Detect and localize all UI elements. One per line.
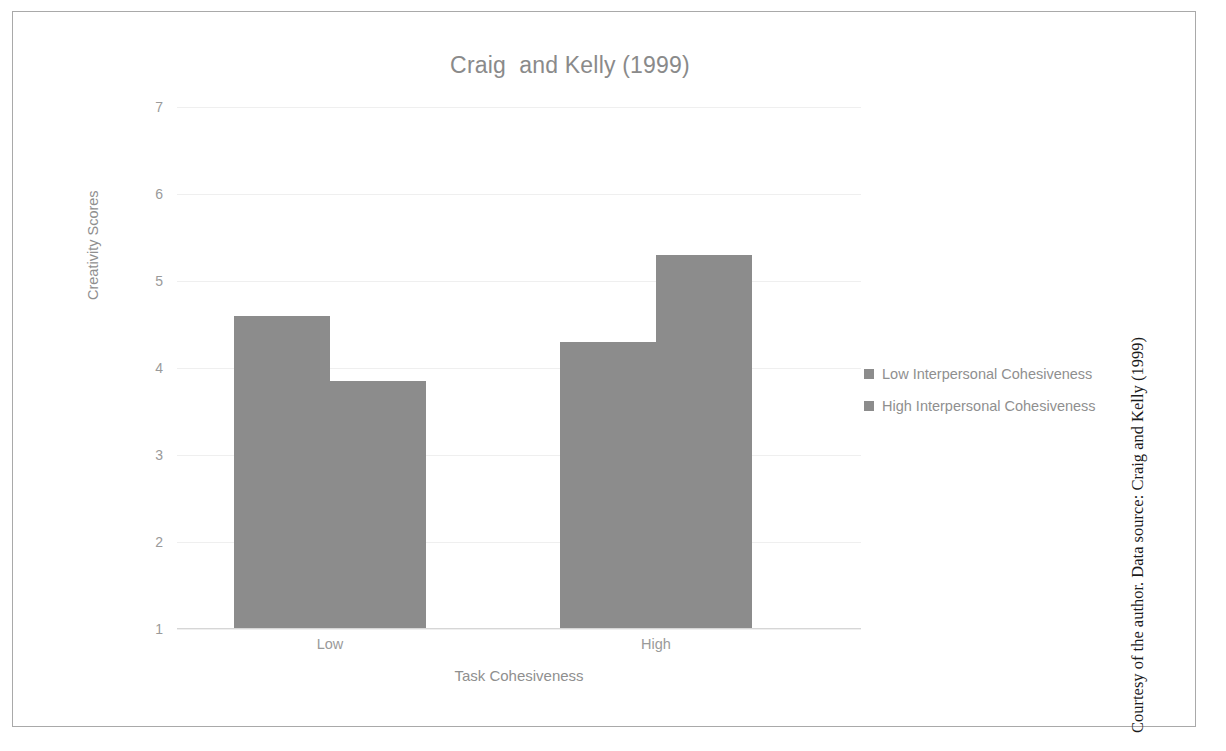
side-caption: Courtesy of the author. Data source: Cra… <box>1128 337 1148 733</box>
legend-item[interactable]: High Interpersonal Cohesiveness <box>864 390 1154 422</box>
y-axis-title: Creativity Scores <box>85 190 101 300</box>
bar <box>330 381 426 629</box>
plot-area <box>177 107 861 629</box>
legend-item-label: High Interpersonal Cohesiveness <box>882 398 1096 414</box>
x-axis-tick-label: High <box>641 636 671 652</box>
y-axis-tick-label: 3 <box>123 447 163 463</box>
chart-title: Craig and Kelly (1999) <box>60 52 1080 79</box>
gridline <box>177 629 861 630</box>
y-axis-tick-label: 6 <box>123 186 163 202</box>
x-axis-line <box>177 628 861 629</box>
y-axis-tick-label: 4 <box>123 360 163 376</box>
y-axis-tick-label: 5 <box>123 273 163 289</box>
gridline <box>177 194 861 195</box>
figure-canvas: Craig and Kelly (1999) Creativity Scores… <box>0 0 1226 751</box>
bar <box>560 342 656 629</box>
y-axis-tick-label: 1 <box>123 621 163 637</box>
y-axis-tick-label: 7 <box>123 99 163 115</box>
gridline <box>177 281 861 282</box>
x-axis-tick-label: Low <box>317 636 344 652</box>
side-caption-container: Courtesy of the author. Data source: Cra… <box>1140 0 1180 751</box>
chart-legend: Low Interpersonal CohesivenessHigh Inter… <box>864 358 1154 422</box>
x-axis-tick-labels: LowHigh <box>177 636 861 662</box>
legend-swatch-icon <box>864 401 874 411</box>
legend-swatch-icon <box>864 369 874 379</box>
y-axis-tick-labels: 7654321 <box>127 107 163 629</box>
legend-item[interactable]: Low Interpersonal Cohesiveness <box>864 358 1154 390</box>
bar <box>234 316 330 629</box>
legend-item-label: Low Interpersonal Cohesiveness <box>882 366 1092 382</box>
x-axis-title: Task Cohesiveness <box>177 667 861 684</box>
gridline <box>177 107 861 108</box>
bar <box>656 255 752 629</box>
y-axis-tick-label: 2 <box>123 534 163 550</box>
